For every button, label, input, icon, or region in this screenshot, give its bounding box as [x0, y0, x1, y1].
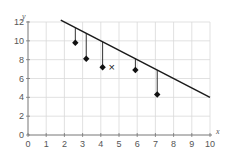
diamond-marker — [99, 64, 105, 70]
x-tick-label: 1 — [44, 139, 49, 149]
x-marker: × — [109, 61, 115, 73]
diamond-marker — [83, 56, 89, 62]
y-tick-label: 4 — [19, 92, 24, 102]
x-tick-label: 3 — [80, 139, 85, 149]
x-tick-label: 0 — [25, 139, 30, 149]
diamond-marker — [154, 91, 160, 97]
y-tick-label: 8 — [19, 55, 24, 65]
y-tick-label: 6 — [19, 74, 24, 84]
x-tick-label: 10 — [205, 139, 215, 149]
y-tick-label: 0 — [19, 130, 24, 140]
scatter-chart: × 012345678910024681012 x y — [0, 0, 229, 158]
y-axis-label: y — [21, 12, 26, 21]
x-tick-label: 4 — [98, 139, 103, 149]
grid — [28, 22, 210, 135]
y-tick-label: 10 — [14, 36, 24, 46]
x-axis-label: x — [215, 127, 220, 136]
x-tick-label: 8 — [171, 139, 176, 149]
y-tick-label: 2 — [19, 111, 24, 121]
x-tick-label: 2 — [62, 139, 67, 149]
tick-labels: 012345678910024681012 — [14, 17, 215, 149]
x-tick-label: 5 — [116, 139, 121, 149]
x-tick-label: 9 — [189, 139, 194, 149]
x-tick-label: 7 — [153, 139, 158, 149]
residual-lines — [75, 28, 157, 95]
x-tick-label: 6 — [135, 139, 140, 149]
diamond-marker — [132, 67, 138, 73]
